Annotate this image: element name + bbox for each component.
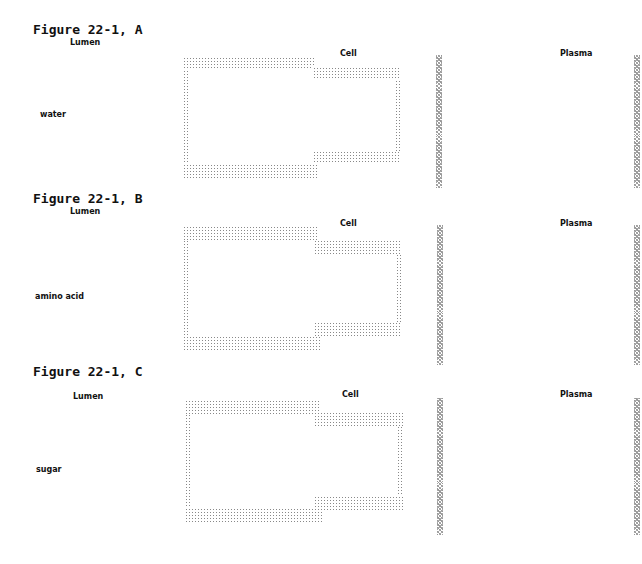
figure-title: Figure 22-1, B	[33, 191, 143, 206]
cell-right-membrane	[397, 426, 403, 496]
substance-label: sugar	[36, 465, 62, 474]
substance-label: amino acid	[35, 292, 84, 301]
figure-panel-c: Figure 22-1, C Lumen Cell Plasma sugar	[0, 0, 642, 175]
capillary-wall-left	[437, 398, 443, 535]
cell-basal-membrane	[185, 508, 322, 522]
cell-apical-membrane	[183, 226, 318, 240]
capillary-wall-left	[437, 225, 443, 365]
cell-left-membrane	[183, 240, 189, 336]
cell-right-membrane	[396, 254, 402, 322]
cell-right-bottom-membrane	[314, 322, 402, 336]
cell-label: Cell	[342, 390, 359, 399]
figure-title: Figure 22-1, C	[33, 364, 143, 379]
cell-right-top-membrane	[314, 412, 403, 426]
cell-basal-membrane	[183, 336, 321, 350]
cell-right-bottom-membrane	[314, 496, 403, 510]
lumen-label: Lumen	[73, 392, 103, 401]
cell-right-top-membrane	[314, 240, 402, 254]
cell-left-membrane	[185, 414, 191, 508]
plasma-label: Plasma	[560, 219, 593, 228]
lumen-label: Lumen	[70, 207, 100, 216]
plasma-label: Plasma	[560, 390, 593, 399]
capillary-wall-right	[634, 398, 640, 535]
capillary-wall-right	[634, 225, 640, 365]
cell-label: Cell	[340, 219, 357, 228]
cell-apical-membrane	[185, 400, 320, 414]
